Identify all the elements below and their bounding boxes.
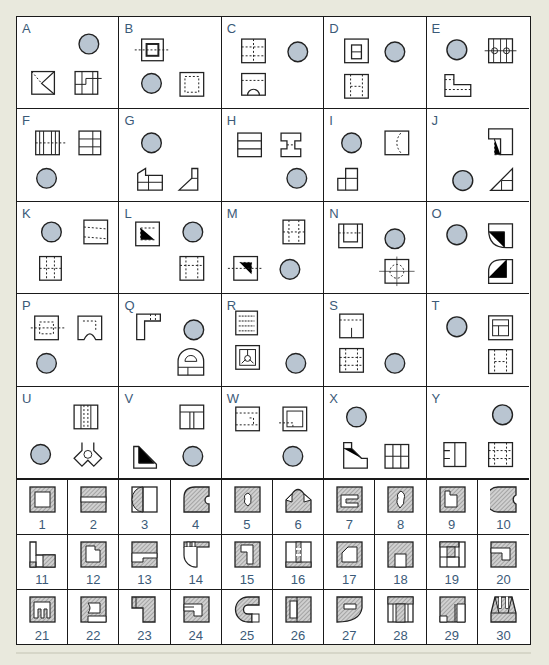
answer-circle[interactable] xyxy=(142,133,162,153)
cell-u[interactable]: U xyxy=(17,387,119,479)
views-g xyxy=(119,109,220,200)
views-o xyxy=(427,202,529,293)
cell-b[interactable]: B xyxy=(119,17,221,109)
option-number: 14 xyxy=(171,572,221,587)
section-option-5[interactable]: 5 xyxy=(222,480,273,535)
answer-circle[interactable] xyxy=(31,444,51,464)
cell-q[interactable]: Q xyxy=(119,294,221,386)
answer-circle[interactable] xyxy=(342,133,362,153)
option-number: 26 xyxy=(273,628,323,643)
section-option-13[interactable]: 13 xyxy=(119,535,170,590)
cell-r[interactable]: R xyxy=(222,294,324,386)
cell-x[interactable]: X xyxy=(324,387,426,479)
views-k xyxy=(17,202,118,293)
section-option-4[interactable]: 4 xyxy=(171,480,222,535)
views-b xyxy=(119,17,220,108)
cell-c[interactable]: C xyxy=(222,17,324,109)
section-option-22[interactable]: 22 xyxy=(68,590,119,645)
cell-l[interactable]: L xyxy=(119,202,221,294)
section-option-21[interactable]: 21 xyxy=(17,590,68,645)
answer-circle[interactable] xyxy=(42,222,62,242)
numbered-section-grid: 1 2 3 4 5 6 7 8 9 10 11 12 13 14 15 16 1… xyxy=(17,479,529,645)
section-option-29[interactable]: 29 xyxy=(427,590,478,645)
section-option-28[interactable]: 28 xyxy=(375,590,426,645)
answer-circle[interactable] xyxy=(447,225,467,245)
cell-n[interactable]: N xyxy=(324,202,426,294)
section-option-2[interactable]: 2 xyxy=(68,480,119,535)
section-option-24[interactable]: 24 xyxy=(171,590,222,645)
option-number: 27 xyxy=(324,628,374,643)
answer-circle[interactable] xyxy=(385,354,405,374)
answer-circle[interactable] xyxy=(283,446,303,466)
cell-k[interactable]: K xyxy=(17,202,119,294)
cell-e[interactable]: E xyxy=(427,17,529,109)
option-number: 21 xyxy=(17,628,67,643)
option-number: 30 xyxy=(478,628,529,643)
answer-circle[interactable] xyxy=(452,171,472,191)
views-u xyxy=(17,387,118,478)
option-number: 17 xyxy=(324,572,374,587)
option-number: 2 xyxy=(68,517,118,532)
answer-circle[interactable] xyxy=(288,42,308,62)
answer-circle[interactable] xyxy=(347,407,367,427)
cell-m[interactable]: M xyxy=(222,202,324,294)
section-option-26[interactable]: 26 xyxy=(273,590,324,645)
cell-g[interactable]: G xyxy=(119,109,221,201)
answer-circle[interactable] xyxy=(447,40,467,60)
answer-circle[interactable] xyxy=(142,74,162,94)
answer-circle[interactable] xyxy=(286,354,306,374)
answer-circle[interactable] xyxy=(385,229,405,249)
section-option-1[interactable]: 1 xyxy=(17,480,68,535)
option-number: 9 xyxy=(427,517,477,532)
section-option-27[interactable]: 27 xyxy=(324,590,375,645)
section-option-15[interactable]: 15 xyxy=(222,535,273,590)
section-option-9[interactable]: 9 xyxy=(427,480,478,535)
option-number: 18 xyxy=(375,572,425,587)
views-x xyxy=(324,387,425,478)
section-option-12[interactable]: 12 xyxy=(68,535,119,590)
cell-v[interactable]: V xyxy=(119,387,221,479)
cell-i[interactable]: I xyxy=(324,109,426,201)
answer-circle[interactable] xyxy=(492,404,512,424)
answer-circle[interactable] xyxy=(447,317,467,337)
section-option-20[interactable]: 20 xyxy=(478,535,529,590)
answer-circle[interactable] xyxy=(37,354,57,374)
cell-j[interactable]: J xyxy=(427,109,529,201)
option-number: 6 xyxy=(273,517,323,532)
section-option-8[interactable]: 8 xyxy=(375,480,426,535)
section-option-10[interactable]: 10 xyxy=(478,480,529,535)
cell-f[interactable]: F xyxy=(17,109,119,201)
answer-circle[interactable] xyxy=(385,42,405,62)
cell-y[interactable]: Y xyxy=(427,387,529,479)
cell-s[interactable]: S xyxy=(324,294,426,386)
section-option-17[interactable]: 17 xyxy=(324,535,375,590)
section-option-16[interactable]: 16 xyxy=(273,535,324,590)
cell-p[interactable]: P xyxy=(17,294,119,386)
section-option-3[interactable]: 3 xyxy=(119,480,170,535)
answer-circle[interactable] xyxy=(79,34,99,54)
option-number: 20 xyxy=(478,572,529,587)
cell-d[interactable]: D xyxy=(324,17,426,109)
views-r xyxy=(222,294,323,385)
answer-circle[interactable] xyxy=(183,446,203,466)
section-option-19[interactable]: 19 xyxy=(427,535,478,590)
cell-o[interactable]: O xyxy=(427,202,529,294)
option-number: 10 xyxy=(478,517,529,532)
section-option-23[interactable]: 23 xyxy=(119,590,170,645)
answer-circle[interactable] xyxy=(280,259,300,279)
section-option-7[interactable]: 7 xyxy=(324,480,375,535)
cell-h[interactable]: H xyxy=(222,109,324,201)
answer-circle[interactable] xyxy=(183,222,203,242)
cell-a[interactable]: A xyxy=(17,17,119,109)
section-option-14[interactable]: 14 xyxy=(171,535,222,590)
section-option-11[interactable]: 11 xyxy=(17,535,68,590)
cell-t[interactable]: T xyxy=(427,294,529,386)
cell-w[interactable]: W xyxy=(222,387,324,479)
section-option-6[interactable]: 6 xyxy=(273,480,324,535)
answer-circle[interactable] xyxy=(287,169,307,189)
section-option-18[interactable]: 18 xyxy=(375,535,426,590)
answer-circle[interactable] xyxy=(37,169,57,189)
section-option-25[interactable]: 25 xyxy=(222,590,273,645)
section-option-30[interactable]: 30 xyxy=(478,590,529,645)
answer-circle[interactable] xyxy=(184,320,204,340)
